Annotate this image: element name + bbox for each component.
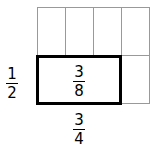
column-fraction-label: 3 4 (73, 112, 85, 147)
grid-cell (121, 55, 150, 104)
grid-cell (121, 7, 150, 56)
inner-fraction-label: 3 8 (73, 64, 85, 99)
grid-cell (93, 7, 122, 56)
row-fraction-label: 1 2 (6, 66, 18, 101)
grid-cell (65, 7, 94, 56)
grid-cell (37, 7, 66, 56)
